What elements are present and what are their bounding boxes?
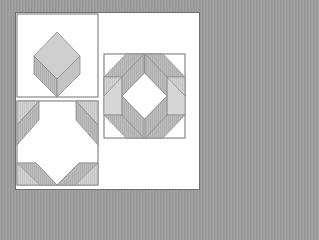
corner-block [17,101,98,185]
cube-unit [17,14,98,97]
quilt-diagram [0,0,206,199]
finished-block [104,54,185,138]
